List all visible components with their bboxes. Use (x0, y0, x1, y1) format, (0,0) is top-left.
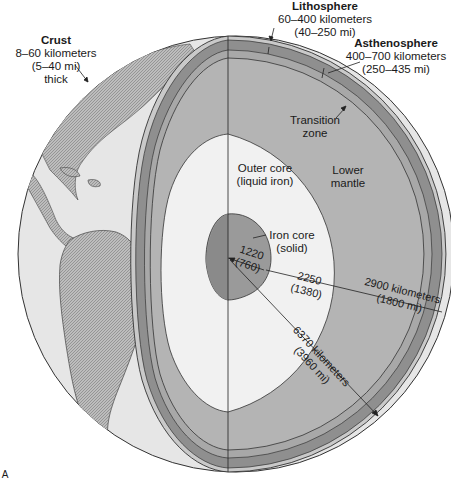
lower-mantle-label: Lower mantle (320, 164, 376, 190)
asthenosphere-mi: (250–435 mi) (340, 63, 451, 76)
figure-label: A (0, 468, 10, 481)
asthenosphere-km: 400–700 kilometers (340, 50, 451, 63)
crust-km: 8–60 kilometers (6, 47, 106, 60)
outer-core-line1: Outer core (225, 162, 305, 175)
lower-mantle-line1: Lower (320, 164, 376, 177)
outer-core-label: Outer core (liquid iron) (225, 162, 305, 188)
crust-thick: thick (6, 73, 106, 86)
transition-zone-label: Transition zone (280, 114, 350, 140)
lithosphere-km: 60–400 kilometers (260, 13, 390, 26)
transition-zone-line2: zone (280, 127, 350, 140)
crust-title: Crust (6, 34, 106, 47)
transition-zone-line1: Transition (280, 114, 350, 127)
lithosphere-title: Lithosphere (260, 0, 390, 13)
iron-core-label: Iron core (solid) (262, 229, 322, 255)
lower-mantle-line2: mantle (320, 177, 376, 190)
outer-core-line2: (liquid iron) (225, 175, 305, 188)
asthenosphere-label: Asthenosphere 400–700 kilometers (250–43… (340, 37, 451, 76)
iron-core-line1: Iron core (262, 229, 322, 242)
crust-mi: (5–40 mi) (6, 60, 106, 73)
lithosphere-label: Lithosphere 60–400 kilometers (40–250 mi… (260, 0, 390, 39)
asthenosphere-title: Asthenosphere (340, 37, 451, 50)
crust-label: Crust 8–60 kilometers (5–40 mi) thick (6, 34, 106, 86)
